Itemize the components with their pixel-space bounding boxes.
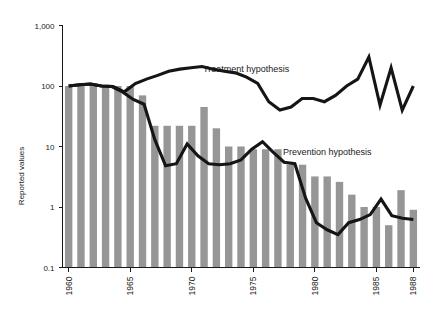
bar xyxy=(200,107,207,268)
x-axis-tick-label: 1965 xyxy=(125,276,135,295)
bar xyxy=(287,165,294,268)
x-axis-tick-label: 1980 xyxy=(310,276,320,295)
bar xyxy=(237,147,244,268)
x-axis-ticks: 1960196519701975198019851988 xyxy=(64,268,419,296)
bar xyxy=(250,149,257,267)
bar xyxy=(336,182,343,268)
bar xyxy=(176,126,183,268)
chart-figure: 1,0001001010.1 1960196519701975198019851… xyxy=(0,0,432,313)
x-axis-tick-label: 1975 xyxy=(248,276,258,295)
y-axis-tick-label: 100 xyxy=(41,82,55,91)
x-axis-tick-label: 1988 xyxy=(408,276,418,295)
x-axis-tick-label: 1985 xyxy=(371,276,381,295)
bar xyxy=(114,86,121,268)
bar xyxy=(274,149,281,267)
prevention-hypothesis-annotation: Prevention hypothesis xyxy=(283,147,372,157)
bar xyxy=(385,225,392,267)
x-axis-tick-label: 1960 xyxy=(64,276,74,295)
y-axis-tick-label: 1,000 xyxy=(34,22,55,31)
bar xyxy=(397,190,404,267)
bar xyxy=(323,176,330,267)
bar xyxy=(213,128,220,267)
log-line-bar-chart: 1,0001001010.1 1960196519701975198019851… xyxy=(0,0,432,313)
treatment-hypothesis-annotation: Treatment hypothesis xyxy=(203,64,290,74)
y-axis-tick-label: 1 xyxy=(50,203,55,212)
bar xyxy=(90,86,97,268)
bar xyxy=(77,86,84,268)
bar xyxy=(262,149,269,267)
y-axis-tick-label: 0.1 xyxy=(43,264,55,273)
y-axis-title: Reported values xyxy=(17,147,26,205)
bar xyxy=(163,126,170,268)
x-axis-tick-label: 1970 xyxy=(187,276,197,295)
bar-series xyxy=(65,86,417,268)
bar xyxy=(102,86,109,268)
bar xyxy=(348,195,355,268)
bar xyxy=(139,95,146,267)
y-axis-ticks: 1,0001001010.1 xyxy=(34,22,62,273)
bar xyxy=(127,86,134,268)
bar xyxy=(373,207,380,268)
y-axis-tick-label: 10 xyxy=(46,143,55,152)
bar xyxy=(65,86,72,268)
